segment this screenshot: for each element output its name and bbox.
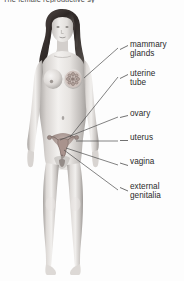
label-mammary-glands-line1: mammary: [130, 40, 167, 49]
label-uterus: uterus: [130, 133, 184, 142]
right-hand: [92, 150, 99, 167]
label-ovary: ovary: [130, 109, 184, 118]
right-leg: [67, 163, 83, 268]
label-vagina: vagina: [130, 157, 184, 166]
label-mammary-glands: mammary glands: [130, 40, 184, 58]
leader-stub-external-genitalia: [120, 187, 129, 192]
label-external-genitalia-line1: external: [130, 182, 160, 191]
leader-stub-uterine-tube: [120, 74, 129, 79]
left-leg: [43, 163, 59, 268]
left-hand: [27, 150, 34, 167]
nipple-left: [50, 80, 53, 83]
label-uterine-tube: uterine tube: [130, 69, 184, 87]
label-mammary-glands-line2: glands: [130, 49, 184, 58]
label-ovary-line1: ovary: [130, 109, 150, 118]
female-body-illustration: [16, 8, 122, 280]
leader-stub-uterus: [120, 138, 129, 143]
diagram-container: The female reproductive sy: [0, 0, 184, 281]
breast-left: [44, 69, 63, 89]
label-uterine-tube-line1: uterine: [130, 69, 155, 78]
ovary-left: [47, 135, 51, 139]
label-external-genitalia-line2: genitalia: [130, 191, 184, 200]
label-uterine-tube-line2: tube: [130, 78, 184, 87]
navel: [62, 116, 65, 120]
leader-stub-mammary-glands: [120, 45, 129, 50]
label-external-genitalia: external genitalia: [130, 182, 184, 200]
ovary-right: [74, 135, 78, 139]
leader-stub-vagina: [120, 162, 129, 167]
leader-stub-ovary: [120, 114, 129, 119]
mammary-gland-cutaway: [65, 70, 81, 87]
diagram-title: The female reproductive sy: [3, 0, 133, 3]
label-vagina-line1: vagina: [130, 157, 154, 166]
label-uterus-line1: uterus: [130, 133, 153, 142]
